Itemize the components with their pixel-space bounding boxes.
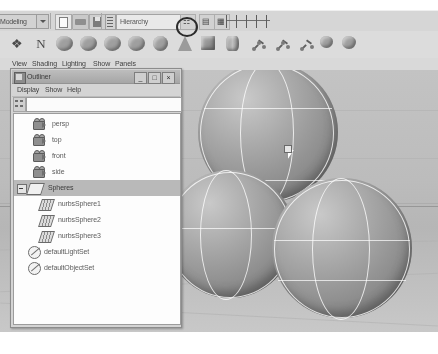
shelf-item-plane[interactable] — [126, 33, 148, 55]
chevron-down-icon[interactable] — [36, 14, 49, 29]
shelf-item-nurbs-curve[interactable]: N — [30, 33, 52, 55]
list-item[interactable]: side — [14, 164, 180, 180]
mouse-cursor — [288, 150, 299, 163]
list-icon[interactable] — [105, 14, 116, 30]
outliner-tree[interactable]: persp top front side Spheres nu — [13, 113, 181, 325]
nurbs-surface-icon — [38, 231, 55, 243]
set-icon — [28, 262, 41, 275]
shelf-item-ik-spline[interactable] — [296, 33, 318, 55]
tree-item-label: side — [52, 164, 64, 180]
shelf-item-blob-3[interactable] — [102, 33, 124, 55]
outliner-window-icon — [14, 72, 26, 84]
menu-set-dropdown[interactable]: Modeling — [0, 14, 39, 29]
tree-item-label: nurbsSphere3 — [58, 228, 101, 244]
snap-to-grid-button[interactable]: ☷ — [180, 14, 196, 30]
shelf-item-deformer[interactable] — [340, 33, 362, 55]
nurbs-surface-icon — [38, 199, 55, 211]
shelf-item-nurbs-cylinder[interactable] — [222, 33, 244, 55]
set-icon — [28, 246, 41, 259]
list-item[interactable]: nurbsSphere2 — [14, 212, 180, 228]
tree-item-label: defaultLightSet — [44, 244, 89, 260]
outliner-menu-bar: Display Show Help — [12, 84, 180, 97]
shelf-item-nurbs-cone[interactable] — [174, 33, 196, 55]
camera-icon — [32, 166, 46, 178]
toolbar-separator — [50, 13, 51, 29]
tree-item-label: front — [52, 148, 66, 164]
tree-item-label: defaultObjectSet — [44, 260, 94, 276]
outliner-title-label: Outliner — [27, 71, 51, 82]
new-scene-button[interactable] — [55, 14, 72, 30]
close-button[interactable]: × — [162, 72, 175, 84]
list-item-selected[interactable]: Spheres — [14, 180, 180, 196]
outliner-filter-row — [13, 97, 179, 111]
list-item[interactable]: front — [14, 148, 180, 164]
list-item[interactable]: nurbsSphere1 — [14, 196, 180, 212]
filter-icon[interactable] — [13, 97, 26, 112]
cursor-selection-box — [284, 145, 292, 153]
shelf-item-skin-bind[interactable] — [318, 33, 340, 55]
tree-item-label: top — [52, 132, 61, 148]
outliner-menu-help[interactable]: Help — [67, 85, 81, 95]
list-item[interactable]: persp — [14, 116, 180, 132]
list-item[interactable]: defaultLightSet — [14, 244, 180, 260]
shelf-item-joint-chain[interactable] — [248, 33, 270, 55]
group-icon — [26, 183, 45, 195]
shelf-item-blob-1[interactable] — [54, 33, 76, 55]
outliner-title-bar[interactable]: Outliner _ □ × — [12, 70, 180, 84]
slider-tick-group[interactable] — [226, 15, 270, 28]
maya-application-window: Modeling Hierarchy ☷ ▤ ▦ ❖ N — [0, 0, 438, 354]
tree-item-label: persp — [52, 116, 69, 132]
outliner-search-input[interactable] — [26, 97, 182, 112]
shelf-item-blob-2[interactable] — [78, 33, 100, 55]
minimize-button[interactable]: _ — [134, 72, 147, 84]
figure-caption — [0, 332, 438, 354]
list-item[interactable]: top — [14, 132, 180, 148]
camera-icon — [32, 134, 46, 146]
camera-icon — [32, 118, 46, 130]
status-line-toolbar: Modeling Hierarchy ☷ ▤ ▦ — [0, 10, 438, 33]
tree-item-label: Spheres — [48, 180, 73, 196]
shelf-toolbar: ❖ N — [0, 31, 438, 59]
expand-collapse-toggle[interactable] — [17, 184, 27, 194]
save-scene-button[interactable] — [89, 14, 106, 30]
toolbar-separator — [101, 13, 102, 29]
top-spacer — [0, 0, 438, 10]
shelf-item-nurbs-sphere[interactable] — [150, 33, 172, 55]
camera-icon — [32, 150, 46, 162]
maximize-button[interactable]: □ — [148, 72, 161, 84]
caption-text — [4, 341, 434, 349]
outliner-menu-display[interactable]: Display — [17, 85, 39, 95]
shelf-item-construction-plane[interactable]: ❖ — [6, 33, 28, 55]
list-item[interactable]: nurbsSphere3 — [14, 228, 180, 244]
snap-to-curve-button[interactable]: ▤ — [199, 14, 215, 30]
nurbs-sphere-right[interactable] — [272, 178, 412, 318]
nurbs-surface-icon — [38, 215, 55, 227]
list-item[interactable]: defaultObjectSet — [14, 260, 180, 276]
shelf-item-nurbs-cube[interactable] — [198, 33, 220, 55]
outliner-window[interactable]: Outliner _ □ × Display Show Help persp t… — [10, 68, 182, 328]
open-scene-button[interactable] — [72, 14, 89, 30]
tree-item-label: nurbsSphere1 — [58, 196, 101, 212]
outliner-menu-show[interactable]: Show — [45, 85, 62, 95]
tree-item-label: nurbsSphere2 — [58, 212, 101, 228]
shelf-item-ik-handle[interactable] — [272, 33, 294, 55]
